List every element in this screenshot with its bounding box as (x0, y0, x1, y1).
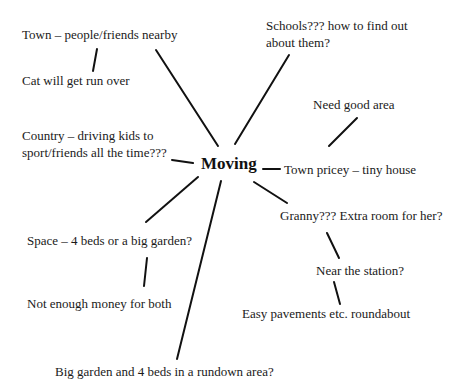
mind-map-canvas: Moving Town – people/friends nearby Cat … (0, 0, 460, 390)
edge-near-easy (334, 282, 340, 304)
edge-townpricey-needarea (329, 118, 357, 146)
node-country-line2: sport/friends all the time??? (22, 144, 167, 161)
connector-lines (0, 0, 460, 390)
edge-moving-granny (254, 182, 287, 203)
node-cat-run-over: Cat will get run over (22, 72, 130, 89)
node-town-people: Town – people/friends nearby (22, 26, 177, 43)
edge-moving-biggarden (177, 181, 221, 359)
node-near-station: Near the station? (316, 262, 404, 279)
node-easy-pavements: Easy pavements etc. roundabout (242, 305, 410, 322)
center-node-moving: Moving (201, 154, 257, 174)
edge-town-cat (93, 49, 97, 71)
node-granny: Granny??? Extra room for her? (280, 207, 442, 224)
edge-moving-town (156, 50, 218, 146)
node-schools-line2: about them? (266, 34, 330, 51)
edge-moving-schools (235, 55, 289, 144)
node-town-pricey: Town pricey – tiny house (284, 161, 416, 178)
edge-moving-country (172, 160, 193, 163)
edge-moving-space (146, 177, 198, 222)
node-country-line1: Country – driving kids to (22, 127, 153, 144)
node-big-garden-rundown: Big garden and 4 beds in a rundown area? (55, 363, 274, 380)
edge-granny-near (327, 233, 339, 258)
node-schools-line1: Schools??? how to find out (266, 17, 408, 34)
node-space: Space – 4 beds or a big garden? (27, 232, 192, 249)
node-not-enough-money: Not enough money for both (27, 295, 171, 312)
node-need-good-area: Need good area (313, 96, 395, 113)
edge-space-notenough (144, 258, 147, 286)
